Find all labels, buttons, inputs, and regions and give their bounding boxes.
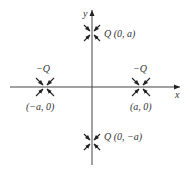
charge-left-label: −Q xyxy=(36,63,51,74)
charge-diagram: x y Q (0, a) Q (0, −a) −Q (−a, 0) −Q (a,… xyxy=(0,0,189,174)
charge-left: −Q (−a, 0) xyxy=(26,63,55,113)
charge-bottom: Q (0, −a) xyxy=(84,131,143,150)
charge-right-coord: (a, 0) xyxy=(130,101,152,113)
charge-right: −Q (a, 0) xyxy=(130,63,152,113)
x-axis-label: x xyxy=(174,89,180,100)
y-axis-arrow-icon xyxy=(90,10,95,16)
charge-top-label: Q (0, a) xyxy=(104,28,136,40)
charge-bottom-label: Q (0, −a) xyxy=(104,131,143,143)
charge-left-coord: (−a, 0) xyxy=(26,101,55,113)
y-axis-label: y xyxy=(82,8,88,19)
charge-right-label: −Q xyxy=(133,63,148,74)
